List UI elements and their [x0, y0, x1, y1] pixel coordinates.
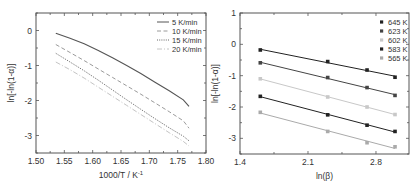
y-tick-label: 0	[231, 39, 236, 49]
y-tick-label: -2	[228, 102, 236, 112]
y-tick-label: 0	[27, 26, 32, 36]
right-plot: 1.42.12.810-1-2-3ln(β)ln[-ln(1-α)]645 K6…	[210, 8, 409, 181]
x-tick-label: 1.55	[56, 156, 73, 166]
legend-label: 10 K/min	[172, 27, 202, 36]
legend-marker-icon	[380, 56, 383, 59]
data-point	[258, 77, 262, 81]
legend-label: 15 K/min	[172, 36, 202, 45]
data-point	[365, 105, 369, 109]
data-point	[393, 75, 397, 79]
data-point	[365, 141, 369, 145]
y-tick-label: -3	[24, 131, 32, 141]
plot-frame	[240, 13, 409, 154]
data-point	[365, 86, 369, 90]
figure: 1.501.551.601.651.701.751.800-1-2-31000/…	[0, 0, 420, 188]
y-axis-title: ln[-ln(1-α)]	[210, 64, 220, 103]
y-tick-label: -3	[228, 133, 236, 143]
data-point	[326, 60, 330, 64]
data-point	[326, 130, 330, 134]
y-tick-label: -1	[228, 71, 236, 81]
x-tick-label: 1.4	[234, 157, 246, 167]
legend-label: 20 K/min	[172, 45, 202, 54]
data-point	[365, 68, 369, 72]
legend-marker-icon	[380, 47, 383, 50]
data-point	[393, 113, 397, 117]
data-point	[258, 111, 262, 115]
legend-marker-icon	[380, 20, 383, 23]
legend-label: 623 K	[388, 27, 408, 36]
data-point	[326, 113, 330, 117]
data-point	[258, 95, 262, 99]
x-axis-title: 1000/T / K-1	[99, 170, 144, 180]
legend-label: 645 K	[388, 18, 408, 27]
y-tick-label: -2	[24, 96, 32, 106]
data-point	[393, 94, 397, 98]
data-point	[393, 145, 397, 149]
x-tick-label: 2.1	[302, 157, 314, 167]
x-tick-label: 1.80	[198, 156, 215, 166]
chart-canvas: 1.501.551.601.651.701.751.800-1-2-31000/…	[0, 0, 420, 188]
series-line	[56, 53, 189, 141]
data-point	[393, 130, 397, 134]
series-line	[56, 45, 189, 129]
series-line	[56, 33, 189, 106]
data-point	[326, 76, 330, 80]
x-tick-label: 2.8	[370, 157, 382, 167]
data-point	[326, 95, 330, 99]
data-point	[365, 123, 369, 127]
x-tick-label: 1.65	[113, 156, 130, 166]
x-tick-label: 1.50	[28, 156, 45, 166]
data-point	[258, 61, 262, 65]
x-tick-label: 1.75	[169, 156, 186, 166]
y-tick-label: -1	[24, 61, 32, 71]
legend-label: 565 K	[388, 54, 408, 63]
legend-marker-icon	[380, 38, 383, 41]
legend-label: 583 K	[388, 45, 408, 54]
left-plot: 1.501.551.601.651.701.751.800-1-2-31000/…	[6, 13, 215, 180]
legend-marker-icon	[380, 29, 383, 32]
x-axis-title: ln(β)	[316, 171, 333, 181]
x-tick-label: 1.60	[84, 156, 101, 166]
legend-label: 5 K/min	[172, 18, 197, 27]
series-line	[56, 62, 189, 146]
data-point	[258, 48, 262, 52]
y-axis-title: ln[-ln(1-α)]	[6, 64, 16, 103]
x-tick-label: 1.70	[141, 156, 158, 166]
legend-label: 602 K	[388, 36, 408, 45]
y-tick-label: 1	[231, 8, 236, 18]
